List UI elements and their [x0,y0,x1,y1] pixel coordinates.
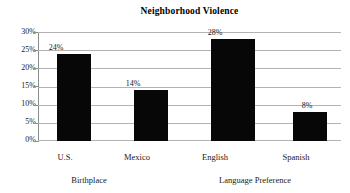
y-tick-mark-0 [34,141,38,142]
bar-english [211,39,255,141]
category-label-us: U.S. [41,153,89,162]
category-label-mexico: Mexico [113,153,161,162]
y-tick-label-25: 25% [2,46,36,54]
chart-title: Neighborhood Violence [38,6,341,16]
y-tick-label-20: 20% [2,64,36,72]
gridline-25 [38,50,341,51]
category-label-english: English [191,153,239,162]
group-label-language-preference: Language Preference [200,176,310,185]
y-tick-label-15: 15% [2,82,36,90]
bar-spanish [293,112,327,141]
bar-value-label-us: 24% [36,44,76,52]
category-label-spanish: Spanish [272,153,320,162]
group-label-birthplace: Birthplace [53,176,125,185]
bar-value-label-mexico: 14% [113,80,153,88]
gridline-30 [38,32,341,33]
y-tick-label-0: 0% [2,136,36,144]
plot-area [38,32,341,141]
y-tick-label-30: 30% [2,28,36,36]
y-tick-label-10: 10% [2,100,36,108]
bar-us [57,54,91,141]
bar-mexico [134,90,168,141]
chart-figure: Neighborhood Violence 30% 25% 20% 15% 10… [0,0,350,193]
bar-value-label-spanish: 8% [292,102,322,110]
bar-value-label-english: 28% [195,29,235,37]
y-tick-label-5: 5% [2,118,36,126]
